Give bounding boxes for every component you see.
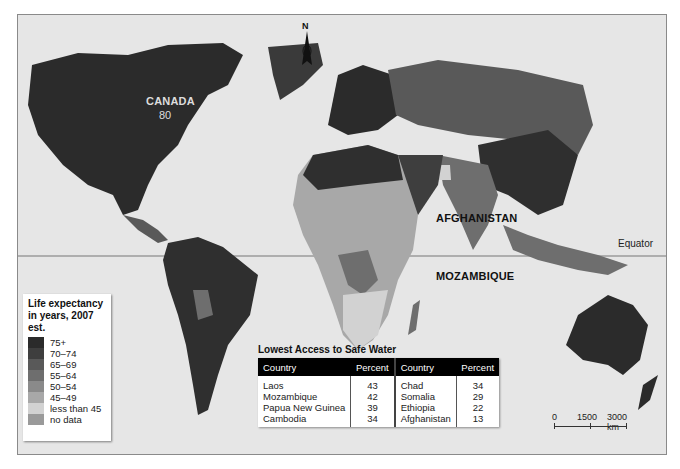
label-canada: CANADA: [146, 95, 195, 107]
legend-item: no data: [28, 414, 106, 425]
safe-water-table-left: Country Percent Laos43 Mozambique42 Papu…: [258, 358, 394, 427]
legend-swatch: [28, 348, 44, 359]
legend-swatch: [28, 337, 44, 348]
scale-bar: 0 1500 3000 km: [552, 412, 632, 432]
table-row: Chad34: [395, 376, 499, 391]
legend-swatch: [28, 414, 44, 425]
column-header-country: Country: [395, 358, 457, 376]
label-afghanistan: AFGHANISTAN: [436, 212, 517, 224]
label-mozambique: MOZAMBIQUE: [436, 270, 514, 282]
north-label: N: [302, 21, 309, 31]
scale-label-1500: 1500: [577, 412, 597, 422]
table-row: Ethiopia22: [395, 402, 499, 413]
north-america: [28, 43, 243, 215]
column-header-percent: Percent: [456, 358, 499, 376]
table-row: Mozambique42: [258, 391, 394, 402]
legend-swatch: [28, 359, 44, 370]
russia: [388, 60, 593, 155]
equator-label: Equator: [618, 238, 653, 249]
southeast-asia-islands: [503, 225, 628, 275]
legend-item: less than 45: [28, 403, 106, 414]
safe-water-table: Lowest Access to Safe Water Country Perc…: [258, 344, 499, 427]
table-row: Papua New Guinea39: [258, 402, 394, 413]
scale-label-0: 0: [552, 412, 557, 422]
compass-arrow-icon: [297, 31, 317, 77]
legend: Life expectancy in years, 2007 est. 75+ …: [23, 294, 111, 441]
scale-tick: [590, 423, 591, 429]
legend-swatch: [28, 381, 44, 392]
legend-item: 65–69: [28, 359, 106, 370]
scale-tick: [554, 423, 555, 429]
column-header-percent: Percent: [351, 358, 394, 376]
north-arrow: N: [297, 21, 317, 67]
legend-swatch: [28, 403, 44, 414]
scale-tick: [626, 423, 627, 429]
legend-item: 50–54: [28, 381, 106, 392]
central-america: [123, 215, 168, 243]
legend-item: 75+: [28, 337, 106, 348]
column-header-country: Country: [258, 358, 351, 376]
legend-title: Life expectancy in years, 2007 est.: [28, 298, 106, 334]
table-row: Laos43: [258, 376, 394, 391]
label-canada-value: 80: [159, 109, 171, 121]
table-row: Afghanistan13: [395, 413, 499, 427]
legend-swatch: [28, 392, 44, 403]
legend-item: 45–49: [28, 392, 106, 403]
scale-label-3000: 3000 km: [607, 412, 632, 432]
table-row: Cambodia34: [258, 413, 394, 427]
legend-swatch: [28, 370, 44, 381]
europe: [328, 65, 398, 135]
safe-water-table-right: Country Percent Chad34 Somalia29 Ethiopi…: [394, 358, 499, 427]
australia: [566, 295, 648, 375]
new-zealand: [638, 375, 658, 410]
table-title: Lowest Access to Safe Water: [258, 344, 499, 355]
table-row: Somalia29: [395, 391, 499, 402]
legend-item: 70–74: [28, 348, 106, 359]
madagascar: [408, 300, 420, 335]
south-america: [163, 237, 258, 415]
legend-item: 55–64: [28, 370, 106, 381]
